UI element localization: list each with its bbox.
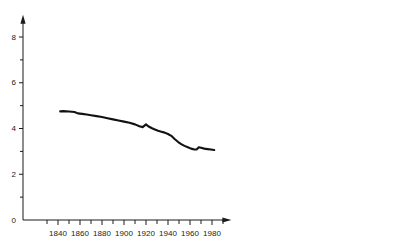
x-axis-arrow	[222, 217, 231, 222]
y-tick-label: 0	[12, 216, 17, 225]
y-axis-tick-labels: 02468	[12, 33, 17, 225]
x-axis-tick-labels: 18401860188019001920194019601980	[49, 229, 221, 238]
y-tick-label: 2	[12, 170, 17, 179]
line-chart: 02468 18401860188019001920194019601980	[0, 0, 402, 247]
y-axis-ticks	[19, 37, 23, 197]
chart-container: 02468 18401860188019001920194019601980	[0, 0, 402, 247]
x-tick-label: 1920	[137, 229, 155, 238]
x-tick-label: 1900	[115, 229, 133, 238]
x-tick-label: 1840	[49, 229, 67, 238]
data-series	[60, 111, 214, 150]
x-tick-label: 1940	[159, 229, 177, 238]
axes	[20, 15, 231, 223]
y-tick-label: 4	[12, 124, 17, 133]
x-axis-ticks	[47, 220, 223, 225]
x-tick-label: 1860	[71, 229, 89, 238]
series-line	[60, 111, 214, 150]
y-tick-label: 8	[12, 33, 17, 42]
x-tick-label: 1880	[93, 229, 111, 238]
y-tick-label: 6	[12, 78, 17, 87]
x-tick-label: 1960	[181, 229, 199, 238]
x-tick-label: 1980	[203, 229, 221, 238]
y-axis-arrow	[20, 15, 25, 24]
